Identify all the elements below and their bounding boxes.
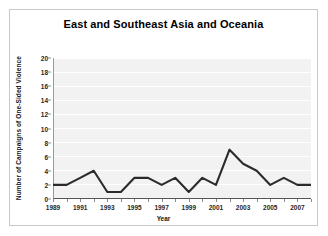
y-axis-tick-mark — [48, 156, 51, 157]
y-axis-tick-mark — [48, 114, 51, 115]
y-axis-tick-labels: 02468101214161820 — [23, 58, 51, 199]
y-axis-tick-mark — [48, 199, 51, 200]
x-axis-tick-mark — [134, 199, 135, 202]
x-axis-tick-mark — [94, 199, 95, 202]
y-axis-tick-mark — [48, 100, 51, 101]
x-axis-tick-mark — [189, 199, 190, 202]
y-axis-tick-mark — [48, 72, 51, 73]
x-axis-tick-mark — [297, 199, 298, 202]
x-axis-tick-mark — [216, 199, 217, 202]
x-axis-tick-mark — [243, 199, 244, 202]
x-axis-tick-mark — [121, 199, 122, 202]
y-axis-tick-label: 10 — [41, 125, 48, 132]
x-axis-tick-mark — [230, 199, 231, 202]
x-axis-tick-label: 2001 — [209, 204, 223, 211]
x-axis-tick-label: 2007 — [290, 204, 304, 211]
y-axis-title-label: Number of Campaigns of One-Sided Violenc… — [15, 56, 22, 200]
x-axis-tick-mark — [175, 199, 176, 202]
y-axis-tick-label: 20 — [41, 55, 48, 62]
series-line-chart — [53, 58, 311, 199]
chart-card: East and Southeast Asia and Oceania Numb… — [9, 9, 318, 226]
y-axis-tick-mark — [48, 128, 51, 129]
y-axis-tick-mark — [48, 58, 51, 59]
y-axis-tick-mark — [48, 142, 51, 143]
x-axis-tick-label: 1993 — [100, 204, 114, 211]
x-axis-tick-mark — [162, 199, 163, 202]
x-axis-tick-label: 1989 — [46, 204, 60, 211]
y-axis-tick-mark — [48, 184, 51, 185]
y-axis-tick-label: 18 — [41, 69, 48, 76]
x-axis-tick-labels: 1989199119931995199719992001200320052007 — [53, 204, 311, 214]
y-axis-tick-label: 16 — [41, 83, 48, 90]
x-axis-tick-mark — [107, 199, 108, 202]
x-axis-tick-mark — [148, 199, 149, 202]
x-axis-tick-label: 2005 — [263, 204, 277, 211]
chart-title: East and Southeast Asia and Oceania — [10, 18, 317, 30]
x-axis-tick-mark — [80, 199, 81, 202]
plot-wrapper — [53, 58, 311, 199]
x-axis-tick-mark — [257, 199, 258, 202]
x-axis-tick-mark — [53, 199, 54, 202]
x-axis-tick-mark — [311, 199, 312, 202]
y-axis-tick-mark — [48, 86, 51, 87]
x-axis-tick-mark — [284, 199, 285, 202]
x-axis-tick-mark — [202, 199, 203, 202]
x-axis-tick-mark — [270, 199, 271, 202]
x-axis-tick-label: 2003 — [236, 204, 250, 211]
x-axis-title: Year — [10, 215, 317, 222]
x-axis-tick-label: 1991 — [73, 204, 87, 211]
x-axis-tick-label: 1995 — [127, 204, 141, 211]
y-axis-tick-label: 14 — [41, 97, 48, 104]
y-axis-tick-mark — [48, 170, 51, 171]
x-axis-tick-label: 1999 — [182, 204, 196, 211]
x-axis-tick-mark — [67, 199, 68, 202]
series-polyline — [53, 150, 311, 192]
x-axis-tick-label: 1997 — [154, 204, 168, 211]
y-axis-tick-label: 12 — [41, 111, 48, 118]
